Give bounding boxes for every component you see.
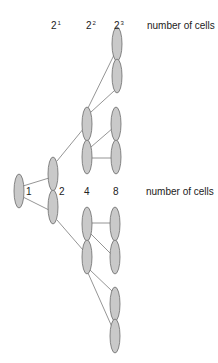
cell-gen8-f bbox=[110, 240, 120, 274]
line-4a-to-8a bbox=[88, 55, 114, 108]
top-number-of-cells-label: number of cells bbox=[147, 21, 215, 31]
line-4b-to-8c bbox=[91, 128, 113, 147]
cell-gen4-a bbox=[82, 107, 92, 141]
power-exponent: 2 bbox=[93, 20, 96, 26]
cell-gen8-e bbox=[110, 207, 120, 241]
line-2a-to-4a bbox=[57, 128, 84, 161]
line-4d-to-8h bbox=[88, 273, 112, 327]
cell-gen8-b bbox=[112, 59, 122, 93]
power-exponent: 1 bbox=[58, 20, 61, 26]
line-2b-to-4c bbox=[57, 220, 83, 250]
power-base: 2 bbox=[86, 20, 92, 31]
count-label-1: 1 bbox=[26, 187, 32, 197]
cell-gen8-d bbox=[111, 140, 121, 174]
count-label-4: 4 bbox=[84, 187, 90, 197]
cell-gen2-b bbox=[48, 190, 58, 224]
cell-gen8-h bbox=[110, 319, 120, 353]
power-base: 2 bbox=[114, 20, 120, 31]
line-4c-to-8f bbox=[91, 234, 111, 254]
power-label-2-3: 23 bbox=[114, 21, 124, 32]
power-label-2-2: 22 bbox=[86, 21, 96, 32]
cell-gen8-c bbox=[111, 107, 121, 141]
count-label-8: 8 bbox=[113, 187, 119, 197]
middle-number-of-cells-label: number of cells bbox=[146, 187, 214, 197]
cell-division-diagram bbox=[0, 0, 218, 363]
cell-gen8-g bbox=[110, 287, 120, 321]
line-4d-to-8g bbox=[90, 270, 112, 291]
power-base: 2 bbox=[51, 20, 57, 31]
cell-gen4-c bbox=[82, 207, 92, 241]
division-lines bbox=[23, 55, 114, 327]
line-1-to-2a bbox=[23, 178, 49, 186]
cell-gen8-a bbox=[112, 27, 122, 61]
line-1-to-2b bbox=[23, 197, 49, 210]
cell-gen4-b bbox=[82, 140, 92, 174]
cell-gen1 bbox=[14, 174, 24, 208]
count-label-2: 2 bbox=[59, 187, 65, 197]
power-exponent: 3 bbox=[121, 20, 124, 26]
power-label-2-1: 21 bbox=[51, 21, 61, 32]
cell-gen4-d bbox=[82, 240, 92, 274]
cell-gen2-a bbox=[48, 157, 58, 191]
